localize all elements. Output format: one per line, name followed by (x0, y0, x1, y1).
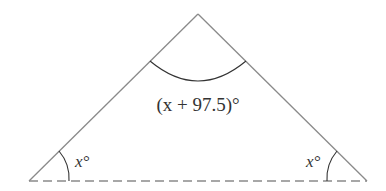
right-angle-label: x° (305, 152, 321, 171)
apex-angle-arc (150, 61, 246, 81)
triangle-diagram: (x + 97.5)° x° x° (0, 0, 386, 191)
left-angle-label: x° (74, 152, 90, 171)
apex-angle-label: (x + 97.5)° (156, 94, 239, 116)
right-angle-arc (327, 151, 337, 181)
left-angle-arc (59, 151, 69, 181)
